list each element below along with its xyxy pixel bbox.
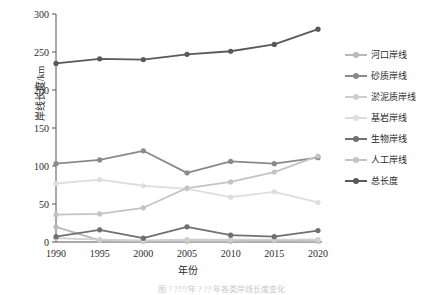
data-point [184, 185, 189, 190]
data-point [53, 161, 58, 166]
y-tick-label: 250 [34, 47, 49, 58]
data-point [97, 211, 102, 216]
data-point [315, 27, 320, 32]
legend-item[interactable]: 人工岸线 [345, 149, 443, 170]
legend-marker-icon [345, 155, 367, 165]
data-point [53, 234, 58, 239]
data-point [184, 170, 189, 175]
legend-item[interactable]: 基岩岸线 [345, 107, 443, 128]
data-point [97, 227, 102, 232]
data-point [53, 224, 58, 229]
data-point [141, 236, 146, 241]
data-point [228, 179, 233, 184]
data-point [228, 237, 233, 242]
data-point [228, 195, 233, 200]
legend-label: 人工岸线 [371, 153, 407, 166]
legend-item[interactable]: 总长度 [345, 170, 443, 191]
series-砂质岸线 [53, 148, 320, 175]
x-tick-label: 2015 [264, 248, 284, 259]
legend-marker-icon [345, 134, 367, 144]
data-point [272, 42, 277, 47]
data-point [53, 61, 58, 66]
data-point [272, 189, 277, 194]
legend-item[interactable]: 淤泥质岸线 [345, 86, 443, 107]
figure-container: 岸线长度/km 05010015020025030019901995200020… [0, 0, 443, 295]
y-tick-label: 200 [34, 85, 49, 96]
y-tick-label: 50 [39, 199, 49, 210]
data-point [272, 169, 277, 174]
x-tick-label: 2000 [133, 248, 153, 259]
data-point [141, 57, 146, 62]
data-point [184, 224, 189, 229]
y-tick-label: 0 [44, 237, 49, 248]
series-line [56, 156, 318, 215]
data-point [184, 52, 189, 57]
legend-marker-icon [345, 113, 367, 123]
data-point [97, 157, 102, 162]
data-point [315, 237, 320, 242]
data-point [184, 237, 189, 242]
chart-legend: 河口岸线砂质岸线淤泥质岸线基岩岸线生物岸线人工岸线总长度 [345, 44, 443, 191]
data-point [315, 200, 320, 205]
x-tick-label: 2005 [177, 248, 197, 259]
legend-label: 生物岸线 [371, 132, 407, 145]
data-point [97, 237, 102, 242]
legend-label: 砂质岸线 [371, 69, 407, 82]
line-chart: 0501001502002503001990199520002005201020… [0, 0, 330, 268]
plot-area: 岸线长度/km 05010015020025030019901995200020… [0, 0, 330, 268]
x-tick-label: 2020 [308, 248, 328, 259]
legend-label: 淤泥质岸线 [371, 90, 416, 103]
y-tick-label: 150 [34, 123, 49, 134]
y-tick-label: 100 [34, 161, 49, 172]
figure-caption: 图 ? ????年 ? ?? 年各类岸线长度变化 [0, 283, 443, 294]
data-point [141, 148, 146, 153]
legend-label: 基岩岸线 [371, 111, 407, 124]
series-line [56, 29, 318, 63]
legend-item[interactable]: 河口岸线 [345, 44, 443, 65]
data-point [272, 161, 277, 166]
data-point [53, 181, 58, 186]
data-point [141, 183, 146, 188]
data-point [228, 233, 233, 238]
data-point [315, 228, 320, 233]
legend-item[interactable]: 生物岸线 [345, 128, 443, 149]
x-tick-label: 1990 [46, 248, 66, 259]
data-point [272, 234, 277, 239]
x-tick-label: 1995 [90, 248, 110, 259]
series-基岩岸线 [53, 177, 320, 205]
x-axis-title: 年份 [55, 262, 320, 277]
legend-marker-icon [345, 92, 367, 102]
x-tick-label: 2010 [221, 248, 241, 259]
data-point [228, 159, 233, 164]
data-point [97, 56, 102, 61]
y-tick-label: 300 [34, 9, 49, 20]
legend-marker-icon [345, 71, 367, 81]
data-point [141, 205, 146, 210]
legend-item[interactable]: 砂质岸线 [345, 65, 443, 86]
data-point [97, 177, 102, 182]
data-point [53, 212, 58, 217]
series-总长度 [53, 27, 320, 66]
data-point [315, 154, 320, 159]
data-point [228, 49, 233, 54]
legend-marker-icon [345, 50, 367, 60]
legend-marker-icon [345, 176, 367, 186]
legend-label: 总长度 [371, 174, 398, 187]
legend-label: 河口岸线 [371, 48, 407, 61]
